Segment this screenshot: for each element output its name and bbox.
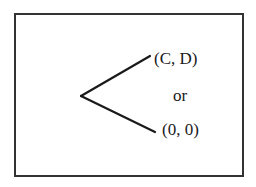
outcome-bottom-label: (0, 0) [162,121,199,138]
branch-lines [0,0,256,187]
lower-branch [81,96,155,132]
connector-or-label: or [173,87,187,104]
upper-branch [81,56,150,96]
outcome-top-label: (C, D) [154,50,197,67]
